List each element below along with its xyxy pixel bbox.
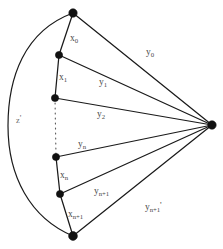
diagram-svg xyxy=(0,0,223,249)
vertex-top xyxy=(69,9,77,17)
label-y2-subscript: 2 xyxy=(102,113,105,120)
label-x1-subscript: 1 xyxy=(64,76,67,83)
label-y2: y2 xyxy=(97,110,105,121)
vertex-3 xyxy=(52,153,59,160)
graph-diagram-canvas: x0x1xnxn+1y0y1y2ynyn+1yn+1'z' xyxy=(0,0,223,249)
spoke-edge-ynp1p xyxy=(73,125,212,236)
label-yn-plus-1-prime-prime-mark: ' xyxy=(160,200,162,210)
vertex-bottom xyxy=(69,232,78,241)
label-z-prime: z' xyxy=(16,114,21,124)
spoke-edge-y2 xyxy=(55,98,212,125)
spoke-edge-ynp1 xyxy=(60,125,212,194)
label-xn-subscript: n xyxy=(65,174,68,181)
label-yn-subscript: n xyxy=(83,143,86,150)
label-y0-subscript: 0 xyxy=(151,51,154,58)
spoke-edge-y1 xyxy=(59,55,212,125)
vertex-4 xyxy=(56,190,63,197)
chain-edge-group xyxy=(55,13,73,236)
chain-gap-group xyxy=(55,98,56,157)
chain-ellipsis-dashed xyxy=(55,98,56,157)
vertex-apex-right xyxy=(208,121,216,129)
spoke-edge-y0 xyxy=(73,13,212,125)
label-x0-subscript: 0 xyxy=(75,37,78,44)
label-yn-plus-1-prime-subscript: n+1 xyxy=(150,206,160,213)
label-x0: x0 xyxy=(70,34,78,45)
label-xn-plus-1: xn+1 xyxy=(68,210,83,221)
label-yn-plus-1-subscript: n+1 xyxy=(99,190,109,197)
label-y1: y1 xyxy=(99,78,107,89)
label-yn: yn xyxy=(78,140,86,151)
label-yn-plus-1: yn+1 xyxy=(94,187,109,198)
vertex-1 xyxy=(55,51,62,58)
label-x1: x1 xyxy=(59,73,67,84)
label-y1-subscript: 1 xyxy=(104,81,107,88)
label-xn-plus-1-subscript: n+1 xyxy=(73,213,83,220)
label-yn-plus-1-prime: yn+1' xyxy=(145,201,162,214)
spoke-edge-group xyxy=(55,13,212,236)
label-xn: xn xyxy=(60,171,68,182)
label-y0: y0 xyxy=(146,48,154,59)
label-z-prime-prime-mark: ' xyxy=(20,113,22,123)
vertex-2 xyxy=(51,94,58,101)
